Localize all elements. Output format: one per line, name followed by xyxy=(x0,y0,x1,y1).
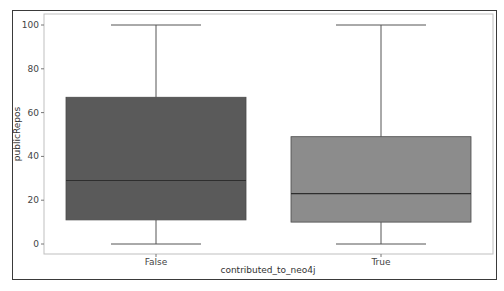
x-axis-label: contributed_to_neo4j xyxy=(220,265,315,275)
y-tick-label: 60 xyxy=(28,108,40,118)
iqr-box xyxy=(66,97,246,220)
y-axis: 020406080100 xyxy=(22,20,44,249)
x-tick-label: True xyxy=(370,257,391,267)
y-tick-label: 100 xyxy=(22,20,39,30)
y-tick-label: 0 xyxy=(33,239,39,249)
x-tick-label: False xyxy=(145,257,168,267)
iqr-box xyxy=(291,137,471,222)
y-tick-label: 40 xyxy=(28,151,40,161)
box-plot-chart: 020406080100 FalseTrue contributed_to_ne… xyxy=(0,0,504,291)
y-tick-label: 80 xyxy=(28,64,40,74)
y-tick-label: 20 xyxy=(28,195,40,205)
y-axis-label: publicRepos xyxy=(12,107,22,162)
